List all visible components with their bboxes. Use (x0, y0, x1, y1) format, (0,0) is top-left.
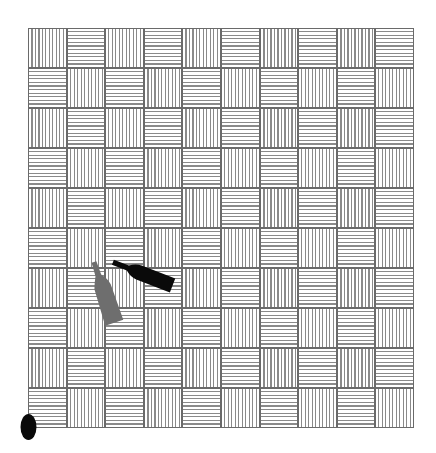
objects-layer (0, 0, 436, 453)
black-oval (21, 414, 37, 440)
scene (0, 0, 436, 453)
black-bottle (110, 255, 175, 292)
gray-bottle (85, 259, 123, 326)
